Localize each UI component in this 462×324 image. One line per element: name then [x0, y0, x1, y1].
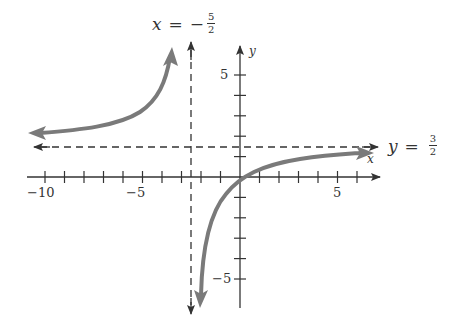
x-tick-label-neg10: −10 [27, 185, 54, 200]
hasym-denominator: 2 [430, 147, 436, 157]
x-tick-label-neg5: −5 [126, 185, 145, 200]
curve-left-branch [40, 57, 170, 133]
y-tick-label-5: 5 [220, 67, 228, 82]
vasym-fraction: 5 2 [207, 12, 215, 35]
hasym-equals: = [405, 136, 419, 156]
vasym-numerator: 5 [208, 12, 214, 22]
hasym-fraction: 3 2 [429, 134, 437, 157]
x-tick-label-5: 5 [333, 185, 341, 200]
x-axis-label: x [367, 152, 374, 166]
y-axis-label: y [249, 44, 256, 58]
y-tick-label-neg5: −5 [212, 271, 231, 286]
horizontal-asymptote-label: y = 3 2 [388, 134, 437, 157]
hasym-lhs: y [388, 136, 398, 156]
vasym-lhs: x [152, 14, 162, 34]
vasym-sign: − [190, 14, 204, 34]
vasym-denominator: 2 [208, 25, 214, 35]
vertical-asymptote-label: x = − 5 2 [152, 12, 215, 35]
vasym-equals: = [169, 14, 183, 34]
hasym-numerator: 3 [430, 134, 436, 144]
